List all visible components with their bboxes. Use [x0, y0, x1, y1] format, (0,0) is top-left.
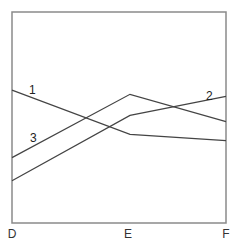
series-lines	[12, 90, 226, 181]
series-label-2: 2	[206, 89, 213, 103]
x-tick-e: E	[124, 227, 132, 241]
series-line-3	[12, 94, 226, 157]
line-chart: 1 2 3 D E F	[0, 0, 239, 244]
series-line-1	[12, 90, 226, 141]
series-label-1: 1	[29, 83, 36, 97]
series-label-3: 3	[30, 131, 37, 145]
x-tick-f: F	[222, 227, 229, 241]
plot-frame	[12, 12, 226, 223]
x-tick-d: D	[8, 227, 17, 241]
